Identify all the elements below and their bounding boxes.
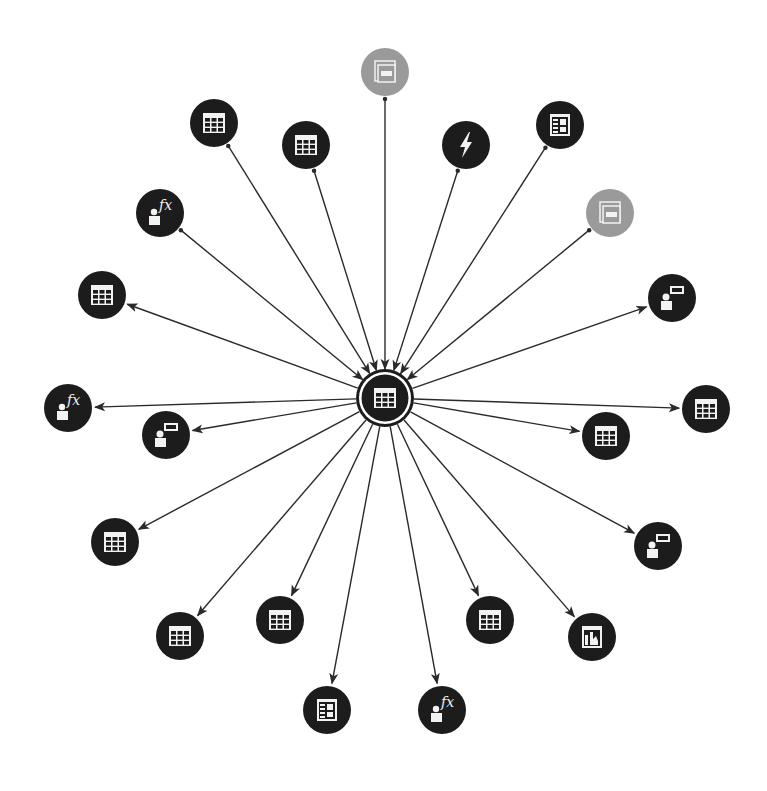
edge-n9 [412, 307, 646, 389]
table-icon [169, 626, 191, 646]
edge-n4 [394, 171, 458, 371]
node-n21[interactable] [568, 613, 616, 661]
report-icon [550, 114, 570, 136]
table-icon [479, 610, 501, 630]
edge-n18 [332, 427, 380, 684]
node-n17[interactable] [256, 596, 304, 644]
node-n9[interactable] [648, 274, 696, 322]
node-n12[interactable] [682, 385, 730, 433]
node-n19[interactable]: fx [418, 686, 466, 734]
graph-svg: fxfxfx [0, 0, 767, 791]
node-n4[interactable] [442, 121, 490, 169]
node-n10[interactable]: fx [44, 384, 92, 432]
table-icon [695, 399, 717, 419]
table-icon [104, 532, 126, 552]
report-icon [317, 699, 337, 721]
table-icon [203, 113, 225, 133]
chart-report-icon [582, 626, 602, 648]
edge-n10 [95, 399, 356, 407]
edge-n20 [397, 424, 478, 595]
table-icon [91, 285, 113, 305]
edge-n3 [314, 171, 376, 371]
node-n7[interactable] [586, 189, 634, 237]
edge-n12 [414, 399, 679, 408]
svg-text:fx: fx [66, 392, 80, 408]
svg-text:fx: fx [158, 197, 172, 213]
edge-n19 [390, 427, 437, 684]
table-icon [269, 610, 291, 630]
edge-n16 [198, 420, 366, 616]
table-icon [595, 426, 617, 446]
node-n1[interactable] [361, 48, 409, 96]
edge-n21 [404, 420, 574, 617]
node-n14[interactable] [91, 518, 139, 566]
node-n2[interactable] [190, 99, 238, 147]
node-n8[interactable] [78, 271, 126, 319]
table-icon [374, 388, 396, 408]
svg-text:fx: fx [440, 694, 454, 710]
node-n16[interactable] [156, 612, 204, 660]
edge-n17 [292, 424, 373, 595]
edge-n7 [407, 230, 589, 379]
node-n5[interactable] [536, 101, 584, 149]
node-n11[interactable] [142, 411, 190, 459]
dependency-graph-canvas: fxfxfx [0, 0, 767, 791]
node-n20[interactable] [466, 596, 514, 644]
edge-n8 [127, 304, 357, 388]
node-n6[interactable]: fx [136, 189, 184, 237]
edge-n5 [401, 148, 546, 374]
node-n18[interactable] [303, 686, 351, 734]
node-n3[interactable] [282, 121, 330, 169]
table-icon [295, 135, 317, 155]
center-node[interactable] [356, 369, 414, 427]
node-n13[interactable] [582, 412, 630, 460]
edge-n2 [228, 146, 369, 373]
node-n15[interactable] [634, 522, 682, 570]
